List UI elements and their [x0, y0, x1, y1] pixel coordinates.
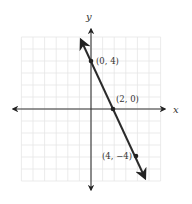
point-2-0 — [111, 107, 116, 112]
point-4-neg4 — [134, 154, 139, 159]
point-label-2-0: (2, 0) — [116, 94, 139, 104]
point-label-4-neg4: (4, −4) — [102, 151, 132, 161]
coordinate-graph: x y (0, 4) (2, 0) (4, −4) — [0, 0, 192, 204]
y-axis-label: y — [85, 11, 92, 22]
point-label-0-4: (0, 4) — [96, 56, 119, 66]
x-axis-label: x — [173, 104, 179, 115]
point-0-4 — [89, 59, 94, 64]
